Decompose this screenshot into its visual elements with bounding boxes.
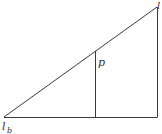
interior-label: p bbox=[98, 56, 105, 69]
base-label: l bbox=[2, 120, 6, 133]
hypotenuse-line bbox=[4, 7, 157, 117]
apex-label: l bbox=[157, 0, 160, 11]
base-label-subscript: b bbox=[7, 126, 12, 134]
triangle-diagram: l p l b bbox=[0, 0, 162, 134]
